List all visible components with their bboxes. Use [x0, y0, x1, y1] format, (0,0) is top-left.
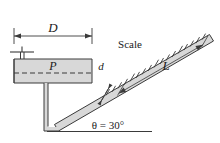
scale-label: Scale	[118, 38, 142, 50]
dimension-d-label: d	[98, 60, 104, 72]
dimension-D-label: D	[47, 20, 58, 35]
manometer-diagram-svg: D P Scale	[0, 0, 220, 143]
inclined-tube-manometer-figure: D P Scale	[0, 0, 220, 143]
dimension-D: D	[14, 20, 92, 44]
angle-theta-label: θ = 30°	[92, 119, 124, 131]
angle-annotation: θ = 30°	[92, 119, 124, 131]
dimension-L-label: L	[161, 58, 169, 73]
pressure-P-label: P	[48, 59, 57, 73]
